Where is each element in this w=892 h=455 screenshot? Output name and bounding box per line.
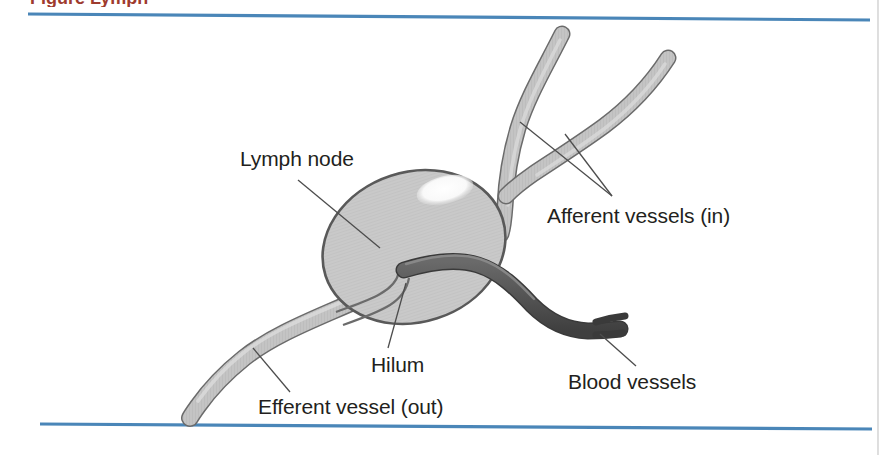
top-rule [28, 14, 870, 20]
lymph-node-diagram: Figure Lymph [0, 0, 892, 455]
bottom-rule [40, 424, 872, 429]
caption-text: Figure Lymph [30, 0, 148, 8]
figure-page: Figure Lymph [0, 0, 892, 455]
figure-caption-fragment: Figure Lymph [30, 0, 148, 8]
label-efferent-vessel: Efferent vessel (out) [258, 395, 443, 418]
leader-efferent [253, 348, 290, 392]
label-hilum: Hilum [371, 353, 424, 376]
label-lymph-node: Lymph node [240, 147, 354, 170]
label-blood-vessels: Blood vessels [568, 370, 696, 393]
leader-blood-vessels [600, 334, 636, 366]
label-afferent-vessels: Afferent vessels (in) [547, 204, 730, 227]
